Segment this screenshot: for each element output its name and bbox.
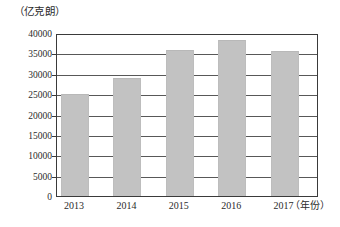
x-axis-tick-label: 2015 [169,200,189,212]
y-axis-tick-label: 30000 [0,70,52,80]
y-axis-unit-label: （亿克朗） [14,6,65,18]
y-axis-tick-label: 5000 [0,172,52,182]
bar-2015 [166,50,194,196]
x-axis-tick-label: 2016 [221,200,241,212]
bar-chart: （亿克朗） （年份） 05000100001500020000250003000… [0,0,340,227]
y-axis-tick-label: 15000 [0,131,52,141]
y-axis-tick-label: 35000 [0,49,52,59]
x-axis-tick-label: 2014 [116,200,136,212]
y-axis-tick-mark [52,136,56,137]
y-axis-tick-mark [52,95,56,96]
bar-2014 [113,78,141,196]
y-axis-tick-label: 25000 [0,90,52,100]
y-axis-tick-mark [52,54,56,55]
y-axis-tick-label: 40000 [0,29,52,39]
x-axis-tick-label: 2017 [274,200,294,212]
bar-2016 [218,40,246,196]
y-axis-tick-mark [52,156,56,157]
y-axis-tick-mark [52,177,56,178]
x-axis-unit-label: （年份） [290,200,330,212]
x-axis-tick-label: 2013 [64,200,84,212]
y-axis-tick-mark [52,75,56,76]
y-axis-tick-label: 0 [0,192,52,202]
plot-area [56,34,318,197]
bar-2017 [271,51,299,196]
y-axis-tick-label: 10000 [0,151,52,161]
y-axis-tick-mark [52,116,56,117]
y-axis-tick-label: 20000 [0,111,52,121]
bar-2013 [61,94,89,196]
